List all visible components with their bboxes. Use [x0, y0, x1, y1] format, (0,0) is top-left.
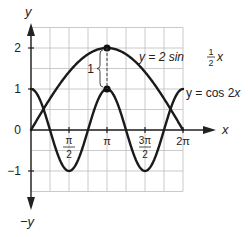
negative-y-axis-label: −y [20, 214, 36, 229]
y-tick-label: 0 [14, 123, 21, 137]
label-variable: x [233, 86, 241, 100]
label-variable: x [216, 50, 224, 64]
y-axis-label: y [24, 4, 33, 19]
x-tick-label-numerator: π [66, 135, 73, 146]
axes: y −y x [20, 4, 229, 229]
y-axis-arrow-down [27, 197, 35, 210]
x-tick-label-denominator: 2 [142, 149, 148, 160]
x-axis-label: x [221, 122, 229, 137]
label-fraction-denominator: 2 [208, 58, 213, 68]
brace-label: 1 [87, 62, 94, 76]
y-tick-label: −1 [7, 164, 21, 178]
x-tick-label-denominator: 2 [66, 149, 72, 160]
label-prefix: y = 2 sin [138, 50, 184, 64]
label-prefix: y = cos 2 [186, 86, 235, 100]
y-axis-arrow-up [27, 23, 35, 36]
series-labels: y = 2 sin 12xy = cos 2x [138, 47, 241, 100]
x-axis-arrow [203, 126, 216, 134]
series-label-cos-2x: y = cos 2x [186, 86, 241, 100]
x-tick-label: 2π [176, 135, 190, 147]
y-tick-label: 1 [14, 82, 21, 96]
chart: y −y x 210−1π2π3π22π 1 y = 2 sin 12xy = … [0, 0, 248, 237]
x-tick-label-numerator: 3π [139, 135, 152, 146]
label-fraction-numerator: 1 [208, 47, 213, 57]
x-tick-label: π [103, 135, 111, 147]
series-label-2sin-half-x: y = 2 sin [138, 50, 184, 64]
y-tick-label: 2 [14, 41, 21, 55]
